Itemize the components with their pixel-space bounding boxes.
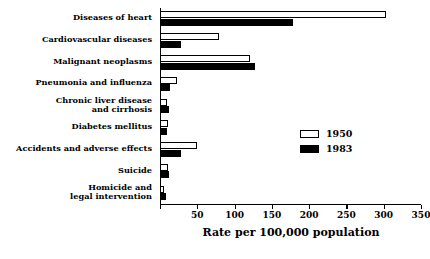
legend-label-1950: 1950: [326, 128, 352, 140]
legend-item-1983: 1983: [300, 143, 380, 156]
legend: 19501983: [300, 128, 380, 158]
category-label-6: Accidents and adverse effects: [0, 144, 152, 154]
x-tick-150: [272, 205, 273, 209]
legend-item-1950: 1950: [300, 128, 380, 141]
category-label-2: Malignant neoplasms: [0, 57, 152, 67]
bar-1983-5: [160, 128, 167, 135]
bar-1983-7: [160, 171, 169, 178]
x-tick-250: [346, 205, 347, 209]
x-tick-350: [421, 205, 422, 209]
bar-1983-6: [160, 150, 181, 157]
bar-1983-3: [160, 84, 170, 91]
x-tick-200: [309, 205, 310, 209]
plot-area: 50100150200250300350: [160, 8, 422, 204]
category-label-5: Diabetes mellitus: [0, 122, 152, 132]
category-label-8: Homicide and legal intervention: [0, 183, 152, 202]
bar-1983-0: [160, 19, 293, 26]
x-tick-300: [384, 205, 385, 209]
x-tick-label-150: 150: [262, 210, 281, 220]
legend-swatch-1983: [300, 145, 319, 153]
bar-1950-5: [160, 120, 168, 127]
bar-1950-0: [160, 11, 386, 18]
x-tick-50: [197, 205, 198, 209]
category-label-4: Chronic liver disease and cirrhosis: [0, 96, 152, 115]
x-tick-100: [235, 205, 236, 209]
x-tick-label-300: 300: [374, 210, 393, 220]
x-tick-label-50: 50: [191, 210, 204, 220]
category-label-0: Diseases of heart: [0, 13, 152, 23]
category-label-3: Pneumonia and influenza: [0, 78, 152, 88]
bar-1950-4: [160, 99, 167, 106]
bar-1950-3: [160, 77, 177, 84]
x-tick-label-100: 100: [225, 210, 244, 220]
bar-1950-2: [160, 55, 250, 62]
x-tick-0: [160, 205, 161, 209]
x-tick-label-250: 250: [337, 210, 356, 220]
x-axis-title: Rate per 100,000 population: [160, 226, 422, 239]
bar-1950-6: [160, 142, 197, 149]
bar-1983-4: [160, 106, 169, 113]
category-label-7: Suicide: [0, 166, 152, 176]
bar-1950-8: [160, 186, 164, 193]
category-label-1: Cardiovascular diseases: [0, 35, 152, 45]
x-tick-label-350: 350: [412, 210, 430, 220]
legend-swatch-1950: [300, 130, 319, 138]
x-axis-line: [160, 204, 421, 205]
bar-1983-8: [160, 193, 166, 200]
x-tick-label-200: 200: [300, 210, 319, 220]
bar-1983-1: [160, 41, 181, 48]
bar-1983-2: [160, 63, 255, 70]
category-axis-labels: Diseases of heartCardiovascular diseases…: [0, 8, 156, 204]
legend-label-1983: 1983: [326, 143, 352, 155]
bar-1950-7: [160, 164, 168, 171]
bar-1950-1: [160, 33, 219, 40]
